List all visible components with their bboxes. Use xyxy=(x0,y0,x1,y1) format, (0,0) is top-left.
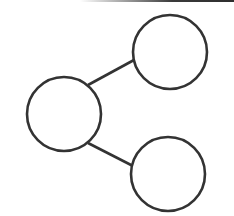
edge-left-top-right xyxy=(88,60,134,85)
edge-left-bottom-right xyxy=(88,143,133,166)
nodes xyxy=(27,15,207,211)
node-left xyxy=(27,77,101,151)
node-bottom-right xyxy=(131,137,205,211)
node-top-right xyxy=(133,15,207,89)
node-link-diagram xyxy=(0,0,234,216)
